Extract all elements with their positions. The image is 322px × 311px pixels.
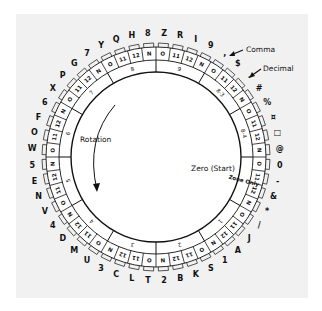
zone-cell-label: N [50,161,56,166]
zone-cell-label: O [256,161,262,166]
character-label: U [84,256,91,265]
character-label: H [128,31,135,40]
character-label: T [145,276,151,285]
character-label: C [113,270,119,279]
character-label: K [193,270,200,279]
character-label: & [270,192,277,201]
zone-cell-label: N [160,257,165,263]
decimal-label: Decimal [263,64,294,73]
character-label: . [248,71,251,80]
character-label: R [177,31,183,40]
character-label: , [223,49,226,58]
comma-label: Comma [246,45,275,54]
character-label: @ [276,144,284,153]
character-label: M [70,246,78,255]
character-label: Y [97,41,104,50]
character-label: D [59,234,66,243]
inner-circle [71,72,241,242]
zone-cell-label: O [160,51,165,57]
character-label: ¤ [271,113,276,122]
character-label: 6 [42,98,48,107]
character-label: Z [161,29,167,38]
character-label: 2 [161,276,167,285]
character-label: F [36,113,41,122]
character-label: G [71,59,78,68]
character-label: J [247,234,251,243]
character-label: I [194,35,197,44]
character-label: 5 [29,161,35,170]
character-label: B [177,274,183,283]
zone-cell-label: N [147,51,152,57]
character-label: # [256,84,263,93]
character-label: - [276,177,279,186]
character-label: $ [235,59,241,68]
character-label: □ [274,128,282,137]
character-label: / [258,221,261,230]
character-label: 0 [277,161,283,170]
character-label: 4 [50,221,56,230]
comma-arrowhead-icon [229,51,235,56]
character-label: E [32,177,37,186]
character-label: 9 [208,41,214,50]
character-label: P [60,71,66,80]
character-label: L [129,274,134,283]
character-label: N [35,192,42,201]
character-label: * [265,207,270,216]
character-label: 7 [84,49,90,58]
zone-cell-label: N [256,148,262,153]
character-label: 3 [98,264,104,273]
character-label: O [31,128,38,137]
character-label: % [263,98,271,107]
character-label: Q [113,35,120,44]
character-label: 1 [222,256,228,265]
zero-start-label: Zero (Start) [191,164,235,173]
print-wheel-diagram: O1112NO1112NO1112NO1112NO1112NO1112NO111… [0,0,322,311]
zone-cell-label: O [146,257,151,263]
character-label: W [28,144,37,153]
character-label: 8 [145,29,151,38]
character-label: S [208,264,214,273]
zone-cell-label: O [50,147,56,152]
character-label: V [42,207,49,216]
character-label: X [50,84,57,93]
character-label: A [235,246,242,255]
